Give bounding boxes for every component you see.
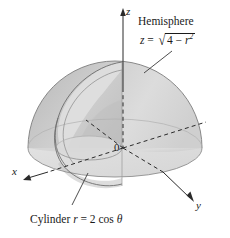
hemisphere-leader-line <box>144 51 172 73</box>
z-axis-label: z <box>126 6 130 17</box>
y-axis-arrowhead <box>187 192 194 202</box>
square-root-icon: √4 − r2 <box>157 33 195 47</box>
radical-glyph: √ <box>158 34 165 46</box>
cylinder-caption-prefix: Cylinder <box>30 213 70 225</box>
radicand: 4 − r2 <box>165 33 195 47</box>
radicand-a: 4 <box>167 34 173 46</box>
cylinder-caption-relation: = <box>80 213 87 225</box>
cylinder-caption-theta: θ <box>117 213 123 225</box>
hemisphere-dome-right <box>115 61 202 152</box>
x-axis-visible <box>28 172 48 178</box>
hemisphere-label: Hemisphere <box>138 16 194 28</box>
radicand-exponent: 2 <box>189 32 193 41</box>
equation-lhs: z <box>140 34 144 46</box>
equation-relation: = <box>147 34 154 46</box>
cylinder-caption-rhs: 2 cos <box>90 213 114 225</box>
cylinder-caption: Cylinder r = 2 cos θ <box>30 214 122 226</box>
x-axis-arrowhead <box>23 175 31 181</box>
cylinder-caption-var: r <box>73 213 77 225</box>
origin-label: 0 <box>114 142 120 153</box>
y-axis-label: y <box>196 200 201 211</box>
hemisphere-equation: z = √4 − r2 <box>140 33 195 47</box>
radicand-minus: − <box>176 34 183 46</box>
y-axis-visible <box>163 172 190 198</box>
figure-container: x y z 0 Hemisphere z = √4 − r2 Cylinder … <box>0 0 230 238</box>
x-axis-label: x <box>12 166 17 177</box>
z-axis-arrowhead <box>120 8 126 16</box>
